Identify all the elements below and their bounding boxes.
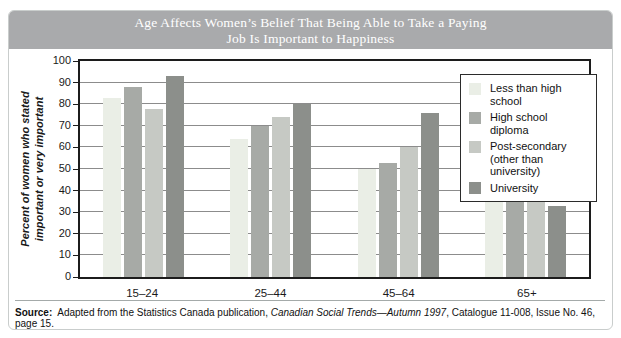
bar-15–24-series-0 [103, 98, 121, 277]
y-tick-label-70: 70 [39, 119, 71, 132]
bar-group-25–44 [207, 61, 334, 277]
y-tick-label-40: 40 [39, 184, 71, 197]
x-tick-label-65+: 65+ [463, 287, 591, 299]
bar-45–64-series-3 [421, 113, 439, 277]
source-text-before: Adapted from the Statistics Canada publi… [57, 307, 270, 318]
legend-label-3: University [490, 182, 538, 195]
y-axis-title-line1: Percent of women who stated [19, 59, 33, 279]
bar-15–24-series-3 [166, 76, 184, 277]
legend-item-1: High school diploma [469, 111, 588, 136]
x-tick-label-15–24: 15–24 [78, 287, 206, 299]
y-tick-label-90: 90 [39, 76, 71, 89]
y-tick-label-50: 50 [39, 162, 71, 175]
legend-swatch-icon-1 [469, 112, 481, 124]
chart-area: Percent of women who stated important or… [9, 49, 612, 296]
y-tick-label-60: 60 [39, 140, 71, 153]
legend-swatch-icon-2 [469, 141, 481, 153]
legend-item-0: Less than high school [469, 82, 588, 107]
legend-label-0: Less than high school [490, 82, 588, 107]
legend-label-2: Post-secondary(other than university) [490, 140, 588, 178]
bar-group-15–24 [80, 61, 207, 277]
source-italic-title: Canadian Social Trends—Autumn 1997 [271, 307, 446, 318]
bar-45–64-series-1 [379, 163, 397, 277]
bar-15–24-series-2 [145, 109, 163, 277]
bar-45–64-series-2 [400, 147, 418, 277]
bar-group-45–64 [335, 61, 462, 277]
legend-label-1: High school diploma [490, 111, 588, 136]
y-tick-label-100: 100 [39, 54, 71, 67]
bar-25–44-series-3 [293, 104, 311, 277]
y-tick-label-30: 30 [39, 205, 71, 218]
y-tick-label-10: 10 [39, 248, 71, 261]
source-label: Source: [15, 307, 52, 318]
source-note: Source:Adapted from the Statistics Canad… [15, 300, 605, 329]
x-tick-label-45–64: 45–64 [335, 287, 463, 299]
bar-45–64-series-0 [358, 169, 376, 277]
chart-title-line2: Job Is Important to Happiness [9, 31, 612, 47]
bar-25–44-series-1 [251, 126, 269, 277]
bar-15–24-series-1 [124, 87, 142, 277]
x-tick-label-25–44: 25–44 [206, 287, 334, 299]
legend-swatch-icon-0 [469, 83, 481, 95]
legend-swatch-icon-3 [469, 182, 481, 194]
legend-item-3: University [469, 182, 588, 195]
figure-panel: Age Affects Women’s Belief That Being Ab… [8, 10, 613, 330]
bar-25–44-series-0 [230, 139, 248, 277]
legend: Less than high schoolHigh school diploma… [460, 74, 597, 202]
bar-65+-series-3 [548, 206, 566, 277]
y-tick-label-20: 20 [39, 227, 71, 240]
bar-65+-series-0 [485, 195, 503, 277]
bar-25–44-series-2 [272, 117, 290, 277]
chart-title-line1: Age Affects Women’s Belief That Being Ab… [9, 15, 612, 31]
y-tick-label-0: 0 [39, 270, 71, 283]
chart-title: Age Affects Women’s Belief That Being Ab… [9, 11, 612, 49]
x-axis-labels: 15–2425–4445–6465+ [78, 287, 591, 299]
legend-item-2: Post-secondary(other than university) [469, 140, 588, 178]
y-tick-label-80: 80 [39, 97, 71, 110]
